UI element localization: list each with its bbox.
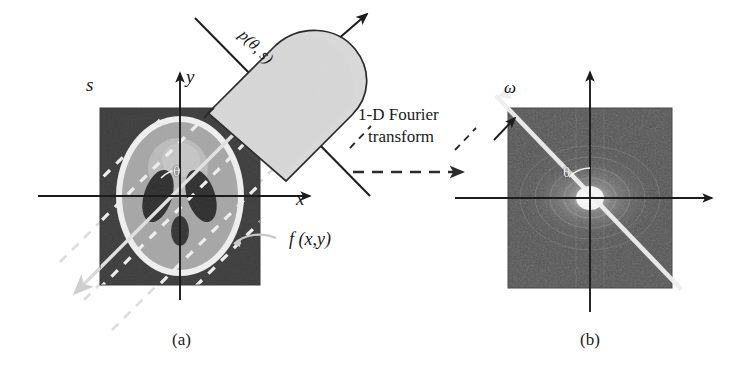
function-label-fxy: f (x,y) <box>289 229 331 250</box>
axis-label-y: y <box>186 66 194 88</box>
figure-svg <box>0 0 731 375</box>
fourier-transform-label-line2: transform <box>368 126 434 147</box>
axis-label-x: x <box>296 188 304 210</box>
figure-canvas: s y x θ f (x,y) p(θ, s) 1-D Fourier tran… <box>0 0 731 375</box>
panel-b-group <box>455 72 712 312</box>
caption-panel-b: (b) <box>580 330 600 350</box>
caption-panel-a: (a) <box>172 330 191 350</box>
fourier-transform-label-line1: 1-D Fourier <box>358 104 439 125</box>
axis-label-omega: ω <box>504 78 516 98</box>
angle-label-theta-b: θ <box>563 164 570 181</box>
axis-label-s: s <box>86 74 93 96</box>
panel-a-group <box>38 14 380 350</box>
angle-label-theta-a: θ <box>173 163 180 180</box>
